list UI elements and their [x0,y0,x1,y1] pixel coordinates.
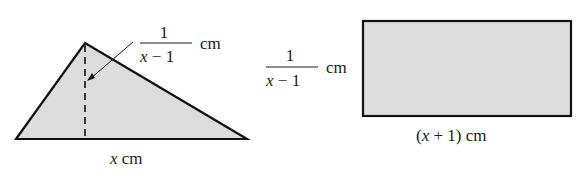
diagram-canvas: 1 x − 1 cm x cm 1 x − 1 cm (x + 1) cm [0,0,584,176]
rectangle-height-denominator-rest: − 1 [274,71,301,90]
triangle-height-denominator-rest: − 1 [148,47,175,66]
rectangle-height-label: 1 x − 1 cm [265,46,347,90]
triangle-base-label: x cm [109,149,143,168]
triangle-shape [16,43,247,139]
rectangle-height-numerator: 1 [286,46,295,65]
triangle-height-unit: cm [200,34,221,53]
triangle-height-label: 1 x − 1 cm [139,23,221,66]
rectangle-shape [363,21,571,116]
rectangle-height-unit: cm [326,58,347,77]
triangle-height-numerator: 1 [160,23,169,42]
triangle-figure [16,42,247,139]
svg-text:x − 1: x − 1 [139,47,174,66]
rectangle-width-label: (x + 1) cm [416,126,487,145]
svg-text:x − 1: x − 1 [265,71,300,90]
